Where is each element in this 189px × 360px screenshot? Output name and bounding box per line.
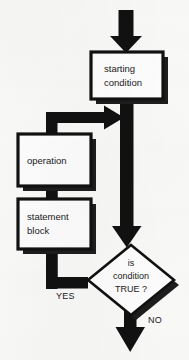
starting-condition-line-2: condition <box>104 77 142 88</box>
condition-line-1: is <box>128 258 135 268</box>
statement-block-line-1: statement <box>27 211 69 222</box>
flowchart-canvas: starting condition operation statement b… <box>0 0 189 360</box>
yes-label: YES <box>56 291 75 301</box>
operation-line-1: operation <box>27 155 67 166</box>
node-starting-condition-label: starting condition <box>104 63 142 88</box>
label-layer: starting condition operation statement b… <box>0 0 189 360</box>
statement-block-line-2: block <box>27 225 49 236</box>
node-statement-block-label: statement block <box>27 211 69 236</box>
condition-line-2: condition <box>113 271 149 281</box>
starting-condition-line-1: starting <box>104 63 135 74</box>
no-label: NO <box>148 315 162 325</box>
node-is-condition-true-label: is condition TRUE ? <box>113 258 149 294</box>
node-operation-label: operation <box>27 155 67 166</box>
condition-line-3: TRUE ? <box>115 284 147 294</box>
